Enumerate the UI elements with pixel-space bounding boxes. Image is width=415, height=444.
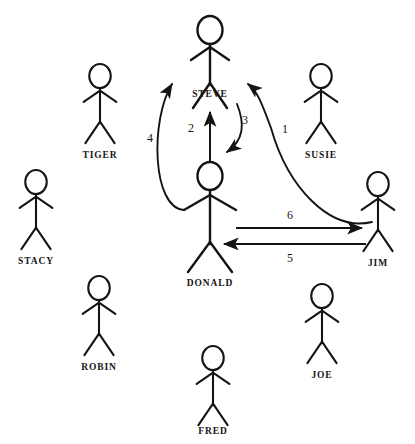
arm-left	[197, 373, 213, 384]
figure-joe[interactable]: JOE	[306, 284, 339, 380]
arm-right	[378, 199, 394, 210]
arm-left	[306, 311, 322, 322]
leg-right	[36, 228, 51, 250]
figure-fred[interactable]: FRED	[197, 346, 230, 436]
figure-susie[interactable]: SUSIE	[305, 64, 338, 160]
arm-right	[213, 373, 229, 384]
leg-left	[306, 122, 321, 144]
leg-left	[188, 242, 210, 272]
figure-tiger[interactable]: TIGER	[82, 64, 117, 160]
figure-label-steve: STEVE	[192, 89, 228, 99]
edge-1-label: 1	[282, 122, 288, 136]
arm-right	[210, 195, 236, 210]
edge-group: 4 1 2 3 6	[147, 84, 372, 265]
figure-robin[interactable]: ROBIN	[81, 276, 117, 372]
stick-figure-tiger	[84, 64, 117, 143]
arm-right	[210, 47, 229, 60]
head-icon	[198, 162, 223, 190]
leg-left	[85, 122, 100, 144]
leg-right	[100, 122, 115, 144]
head-icon	[89, 64, 111, 88]
stick-figure-donald	[184, 162, 236, 272]
arm-left	[20, 197, 36, 208]
stick-figure-stacy	[20, 170, 53, 249]
leg-right	[213, 404, 228, 426]
edge-6[interactable]: 6	[236, 208, 362, 228]
stick-figure-robin	[83, 276, 116, 355]
figure-steve[interactable]: STEVE	[191, 16, 229, 108]
edge-4-path	[157, 84, 184, 210]
head-icon	[202, 346, 224, 370]
arm-left	[191, 47, 210, 60]
arm-right	[322, 311, 338, 322]
figure-jim[interactable]: JIM	[362, 172, 395, 268]
leg-left	[363, 230, 378, 252]
head-icon	[310, 64, 332, 88]
leg-right	[322, 342, 337, 364]
edge-3[interactable]: 3	[227, 104, 248, 152]
edge-4-label: 4	[147, 131, 153, 145]
stick-figure-fred	[197, 346, 230, 425]
edge-6-label: 6	[287, 208, 293, 222]
edge-3-path	[227, 104, 242, 152]
figure-label-joe: JOE	[311, 370, 332, 380]
edge-3-label: 3	[242, 113, 248, 127]
leg-right	[321, 122, 336, 144]
figure-label-stacy: STACY	[18, 256, 54, 266]
arm-left	[83, 303, 99, 314]
leg-left	[198, 404, 213, 426]
leg-right	[210, 242, 232, 272]
arm-left	[305, 91, 321, 102]
figure-donald[interactable]: DONALD	[184, 162, 236, 288]
edge-5-label: 5	[287, 251, 293, 265]
leg-right	[378, 230, 393, 252]
figure-label-tiger: TIGER	[82, 150, 117, 160]
head-icon	[198, 16, 223, 44]
edge-4[interactable]: 4	[147, 84, 184, 210]
edge-5[interactable]: 5	[224, 244, 366, 265]
stick-figure-network-diagram: 4 1 2 3 6	[0, 0, 415, 444]
stick-figure-jim	[362, 172, 395, 251]
arm-right	[321, 91, 337, 102]
arm-left	[362, 199, 378, 210]
head-icon	[311, 284, 333, 308]
stick-figure-susie	[305, 64, 338, 143]
head-icon	[88, 276, 110, 300]
arm-left	[184, 195, 210, 210]
diagram-canvas: 4 1 2 3 6	[0, 0, 415, 444]
arm-right	[36, 197, 52, 208]
stick-figure-joe	[306, 284, 339, 363]
figure-label-donald: DONALD	[187, 278, 234, 288]
figure-stacy[interactable]: STACY	[18, 170, 54, 266]
leg-right	[99, 334, 114, 356]
leg-left	[307, 342, 322, 364]
edge-2[interactable]: 2	[188, 112, 210, 163]
leg-left	[21, 228, 36, 250]
figure-label-jim: JIM	[368, 258, 388, 268]
arm-right	[99, 303, 115, 314]
leg-left	[84, 334, 99, 356]
head-icon	[25, 170, 47, 194]
arm-left	[84, 91, 100, 102]
figure-label-robin: ROBIN	[81, 362, 117, 372]
figure-label-susie: SUSIE	[305, 150, 337, 160]
head-icon	[367, 172, 389, 196]
figure-label-fred: FRED	[198, 426, 227, 436]
edge-2-label: 2	[188, 121, 194, 135]
arm-right	[100, 91, 116, 102]
